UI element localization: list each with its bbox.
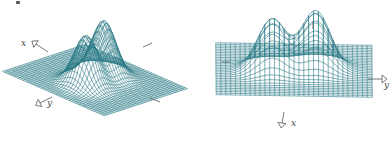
y-axis-label: y [384, 81, 389, 90]
surface-plot-left: x y [0, 0, 196, 142]
y-axis-label: y [47, 99, 52, 108]
surface-plot-right: y x [196, 0, 392, 142]
x-axis-label: x [291, 119, 296, 128]
x-axis-label: x [21, 39, 26, 48]
mesh-surface-left [0, 0, 196, 142]
